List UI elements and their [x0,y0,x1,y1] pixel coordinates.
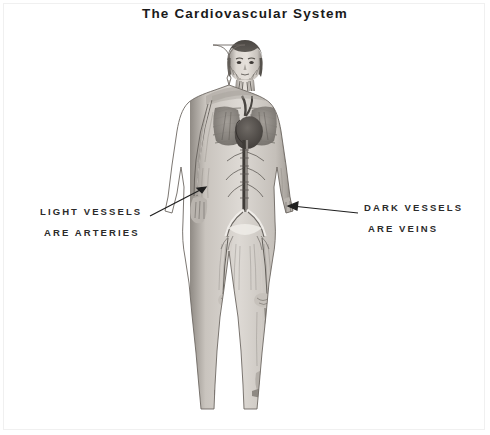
diagram-page: The Cardiovascular System [0,0,490,435]
callout-left-line2: ARE ARTERIES [44,227,142,238]
callout-left-line1: LIGHT VESSELS [40,206,142,217]
head-group [227,40,262,84]
body-group [190,80,300,410]
callout-dark-vessels: DARK VESSELS ARE VEINS [364,202,463,234]
callout-right-line1: DARK VESSELS [364,202,463,213]
callout-light-vessels: LIGHT VESSELS ARE ARTERIES [40,206,142,238]
callout-right-line2: ARE VEINS [368,223,463,234]
